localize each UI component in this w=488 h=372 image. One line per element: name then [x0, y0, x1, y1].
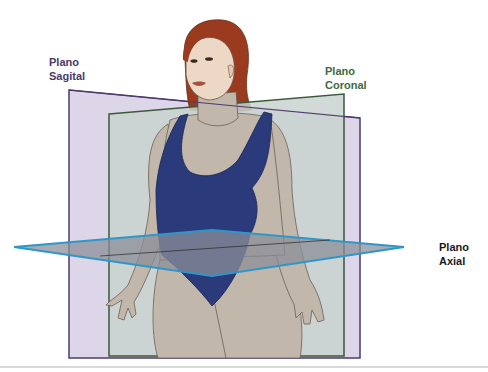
- label-axial-line2: Axial: [439, 254, 469, 268]
- label-axial-plane: Plano Axial: [439, 240, 469, 268]
- label-coronal-plane: Plano Coronal: [325, 64, 367, 92]
- left-eye: [191, 59, 198, 63]
- label-sagittal-line1: Plano: [49, 55, 85, 69]
- label-axial-line1: Plano: [439, 240, 469, 254]
- label-sagittal-plane: Plano Sagital: [49, 55, 85, 83]
- label-sagittal-line2: Sagital: [49, 69, 85, 83]
- right-eye: [205, 57, 213, 61]
- bottom-divider: [0, 366, 488, 368]
- label-coronal-line2: Coronal: [325, 78, 367, 92]
- label-coronal-line1: Plano: [325, 64, 367, 78]
